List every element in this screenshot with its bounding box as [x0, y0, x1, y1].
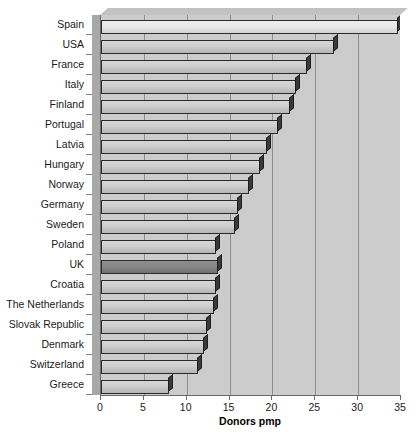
- plot-area: [100, 15, 400, 395]
- bar-face: [101, 180, 249, 194]
- category-label: Slovak Republic: [0, 319, 84, 330]
- plot-left-face: [92, 15, 100, 395]
- category-label: Germany: [0, 199, 84, 210]
- bar-face: [101, 280, 216, 294]
- bar[interactable]: [101, 320, 207, 334]
- bar[interactable]: [101, 60, 307, 74]
- category-label: Spain: [0, 19, 84, 30]
- category-label: USA: [0, 39, 84, 50]
- bar-face: [101, 260, 218, 274]
- bar[interactable]: [101, 240, 216, 254]
- bar-side-3d: [197, 354, 202, 372]
- bar-side-3d: [333, 34, 338, 52]
- bar-side-3d: [277, 114, 282, 132]
- bar-face: [101, 40, 334, 54]
- category-label: Sweden: [0, 219, 84, 230]
- bar-side-3d: [248, 174, 253, 192]
- x-tick: [100, 395, 101, 400]
- bar-face: [101, 240, 216, 254]
- x-tick-label: 5: [128, 401, 158, 413]
- bar-side-3d: [168, 374, 173, 392]
- bar[interactable]: [101, 160, 260, 174]
- bar-side-3d: [266, 134, 271, 152]
- bar-face: [101, 320, 207, 334]
- bar-face: [101, 100, 290, 114]
- plot-top-face: [100, 8, 408, 15]
- bar[interactable]: [101, 260, 218, 274]
- bar-side-3d: [295, 74, 300, 92]
- x-axis-line: [100, 395, 400, 396]
- category-axis: SpainUSAFranceItalyFinlandPortugalLatvia…: [0, 14, 92, 394]
- bar-side-3d: [215, 234, 220, 252]
- bar-side-3d: [213, 294, 218, 312]
- bar-face: [101, 140, 267, 154]
- gridline-30: [358, 15, 359, 395]
- category-label: Hungary: [0, 159, 84, 170]
- bar-side-3d: [306, 54, 311, 72]
- x-tick-label: 25: [299, 401, 329, 413]
- bar-face: [101, 120, 278, 134]
- bar[interactable]: [101, 220, 235, 234]
- x-tick-label: 20: [256, 401, 286, 413]
- category-label: UK: [0, 259, 84, 270]
- category-label: Denmark: [0, 339, 84, 350]
- bar-side-3d: [289, 94, 294, 112]
- bar[interactable]: [101, 100, 290, 114]
- bar[interactable]: [101, 200, 238, 214]
- gridline-25: [315, 15, 316, 395]
- category-label: France: [0, 59, 84, 70]
- bar-face: [101, 380, 169, 394]
- category-label: The Netherlands: [0, 299, 84, 310]
- bar-side-3d: [237, 194, 242, 212]
- bar-face: [101, 200, 238, 214]
- bar[interactable]: [101, 140, 267, 154]
- category-label: Portugal: [0, 119, 84, 130]
- category-label: Norway: [0, 179, 84, 190]
- category-label: Switzerland: [0, 359, 84, 370]
- bar-side-3d: [397, 15, 400, 32]
- category-label: Finland: [0, 99, 84, 110]
- x-tick-label: 30: [342, 401, 372, 413]
- category-label: Latvia: [0, 139, 84, 150]
- bar-face: [101, 20, 398, 34]
- bar-face: [101, 360, 198, 374]
- bar[interactable]: [101, 80, 296, 94]
- category-label: Italy: [0, 79, 84, 90]
- bar[interactable]: [101, 380, 169, 394]
- bar-face: [101, 60, 307, 74]
- bar-face: [101, 340, 204, 354]
- bar-side-3d: [203, 334, 208, 352]
- bar-face: [101, 80, 296, 94]
- bar-side-3d: [217, 254, 222, 272]
- bar[interactable]: [101, 180, 249, 194]
- donors-pmp-bar-chart: SpainUSAFranceItalyFinlandPortugalLatvia…: [0, 0, 420, 435]
- x-tick: [314, 395, 315, 400]
- bar[interactable]: [101, 120, 278, 134]
- bar[interactable]: [101, 280, 216, 294]
- x-tick: [357, 395, 358, 400]
- bar-side-3d: [259, 154, 264, 172]
- bar-face: [101, 160, 260, 174]
- x-tick: [143, 395, 144, 400]
- x-axis-title: Donors pmp: [100, 415, 400, 427]
- category-label: Croatia: [0, 279, 84, 290]
- x-tick-label: 0: [85, 401, 115, 413]
- bar[interactable]: [101, 360, 198, 374]
- bar-face: [101, 300, 214, 314]
- category-label: Greece: [0, 379, 84, 390]
- category-label: Poland: [0, 239, 84, 250]
- x-tick-label: 35: [385, 401, 415, 413]
- x-tick: [400, 395, 401, 400]
- bar[interactable]: [101, 40, 334, 54]
- bar[interactable]: [101, 300, 214, 314]
- x-tick: [271, 395, 272, 400]
- x-tick: [229, 395, 230, 400]
- x-tick-label: 15: [214, 401, 244, 413]
- bar-face: [101, 220, 235, 234]
- bar[interactable]: [101, 340, 204, 354]
- bar-side-3d: [215, 274, 220, 292]
- x-tick-label: 10: [171, 401, 201, 413]
- bar-side-3d: [206, 314, 211, 332]
- bar-side-3d: [234, 214, 239, 232]
- bar[interactable]: [101, 20, 398, 34]
